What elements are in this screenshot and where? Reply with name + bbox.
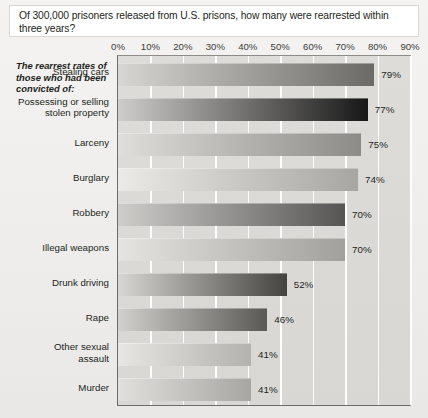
gridline xyxy=(410,56,412,405)
category-label: Larceny xyxy=(0,137,109,148)
category-label-line: Drunk driving xyxy=(0,277,109,288)
x-tick-label: 90% xyxy=(390,41,428,52)
y-axis-category-labels: Stealing carsPossessing or sellingstolen… xyxy=(0,55,113,406)
category-label: Drunk driving xyxy=(0,277,109,288)
category-label: Possessing or sellingstolen property xyxy=(0,96,109,119)
category-label-line: Other sexual xyxy=(0,341,109,352)
bar-row[interactable]: 46% xyxy=(118,308,410,330)
bar-row[interactable]: 70% xyxy=(118,238,410,260)
category-label: Rape xyxy=(0,312,109,323)
bar-value-label: 70% xyxy=(352,208,372,219)
category-label: Illegal weapons xyxy=(0,242,109,253)
bar-row[interactable]: 41% xyxy=(118,343,410,365)
bar-value-label: 77% xyxy=(375,103,395,114)
chart-figure: Of 300,000 prisoners released from U.S. … xyxy=(0,0,428,418)
bar-row[interactable]: 52% xyxy=(118,273,410,295)
category-label-line: Murder xyxy=(0,382,109,393)
category-label-line: Larceny xyxy=(0,137,109,148)
bar[interactable] xyxy=(118,203,345,226)
chart-title-box: Of 300,000 prisoners released from U.S. … xyxy=(9,5,419,37)
category-label-line: Burglary xyxy=(0,172,109,183)
page-title: Of 300,000 prisoners released from U.S. … xyxy=(19,10,409,35)
plot-area: 79%77%75%74%70%70%52%46%41%41% xyxy=(117,55,411,406)
bar-value-label: 46% xyxy=(274,314,294,325)
bar-value-label: 41% xyxy=(258,384,278,395)
bar[interactable] xyxy=(118,343,251,366)
category-label-line: assault xyxy=(0,353,109,364)
bar[interactable] xyxy=(118,308,267,331)
bar[interactable] xyxy=(118,168,358,191)
category-label-line: Possessing or selling xyxy=(0,96,109,107)
bar-row[interactable]: 75% xyxy=(118,133,410,155)
category-label: Burglary xyxy=(0,172,109,183)
bar[interactable] xyxy=(118,238,345,261)
bar[interactable] xyxy=(118,273,287,296)
bar-value-label: 75% xyxy=(368,138,388,149)
bar-value-label: 74% xyxy=(365,173,385,184)
bar-value-label: 52% xyxy=(294,279,314,290)
category-label-line: Illegal weapons xyxy=(0,242,109,253)
category-label-line: stolen property xyxy=(0,107,109,118)
category-label-line: Rape xyxy=(0,312,109,323)
bar-row[interactable]: 77% xyxy=(118,98,410,120)
x-axis-tick-labels: 0%10%20%30%40%50%60%70%80%90% xyxy=(0,41,428,54)
category-label-line: Robbery xyxy=(0,207,109,218)
bar-row[interactable]: 79% xyxy=(118,63,410,85)
category-label: Other sexualassault xyxy=(0,341,109,364)
bar[interactable] xyxy=(118,98,368,121)
bar-value-label: 79% xyxy=(381,68,401,79)
category-label: Murder xyxy=(0,382,109,393)
bar-value-label: 41% xyxy=(258,349,278,360)
bar-row[interactable]: 41% xyxy=(118,378,410,400)
category-label: Robbery xyxy=(0,207,109,218)
bar[interactable] xyxy=(118,133,361,156)
bar-value-label: 70% xyxy=(352,244,372,255)
bar-row[interactable]: 74% xyxy=(118,168,410,190)
category-label-line: Stealing cars xyxy=(0,66,109,77)
bar[interactable] xyxy=(118,63,374,86)
category-label: Stealing cars xyxy=(0,66,109,77)
bar[interactable] xyxy=(118,378,251,401)
bar-row[interactable]: 70% xyxy=(118,203,410,225)
